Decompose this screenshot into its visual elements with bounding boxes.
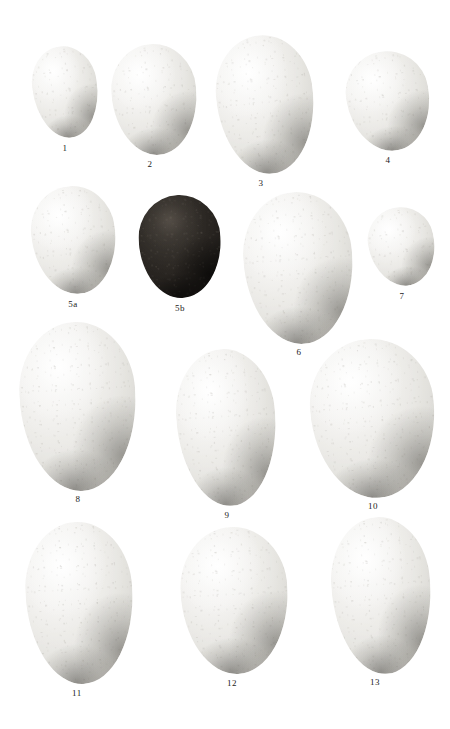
egg-label-4: 4 [368, 155, 408, 165]
egg-body-8 [16, 319, 141, 494]
egg-body-5b [136, 193, 223, 300]
egg-specimen-5b [136, 193, 223, 300]
egg-label-12: 12 [212, 678, 252, 688]
egg-label-3: 3 [241, 178, 281, 188]
egg-specimen-5a [26, 181, 123, 298]
egg-body-10 [304, 334, 441, 503]
egg-body-1 [27, 42, 104, 142]
egg-body-13 [327, 514, 437, 678]
egg-specimen-10 [304, 334, 441, 503]
egg-label-7: 7 [382, 291, 422, 301]
egg-label-5b: 5b [160, 303, 200, 313]
egg-specimen-1 [27, 42, 104, 142]
egg-specimen-6 [239, 188, 358, 347]
egg-label-8: 8 [58, 494, 98, 504]
egg-body-2 [107, 41, 201, 159]
egg-body-3 [210, 30, 321, 178]
egg-specimen-13 [327, 514, 437, 678]
egg-specimen-9 [172, 346, 282, 510]
egg-specimen-2 [107, 41, 201, 159]
egg-label-10: 10 [353, 501, 393, 511]
egg-body-5a [26, 181, 123, 298]
egg-label-5a: 5a [53, 299, 93, 309]
egg-specimen-11 [22, 519, 137, 686]
egg-label-9: 9 [207, 510, 247, 520]
egg-body-11 [22, 519, 137, 686]
egg-specimen-3 [210, 30, 321, 178]
egg-specimen-12 [177, 524, 292, 676]
egg-body-6 [239, 188, 358, 347]
egg-label-11: 11 [57, 688, 97, 698]
egg-label-1: 1 [45, 143, 85, 153]
egg-body-9 [172, 346, 282, 510]
egg-specimen-8 [16, 319, 141, 494]
egg-plate-figure: 12345a5b678910111213 [0, 0, 450, 729]
egg-label-13: 13 [355, 677, 395, 687]
egg-label-2: 2 [130, 159, 170, 169]
egg-body-4 [339, 45, 438, 158]
egg-body-7 [362, 201, 443, 292]
egg-specimen-7 [362, 201, 443, 292]
egg-specimen-4 [339, 45, 438, 158]
egg-body-12 [177, 524, 292, 676]
